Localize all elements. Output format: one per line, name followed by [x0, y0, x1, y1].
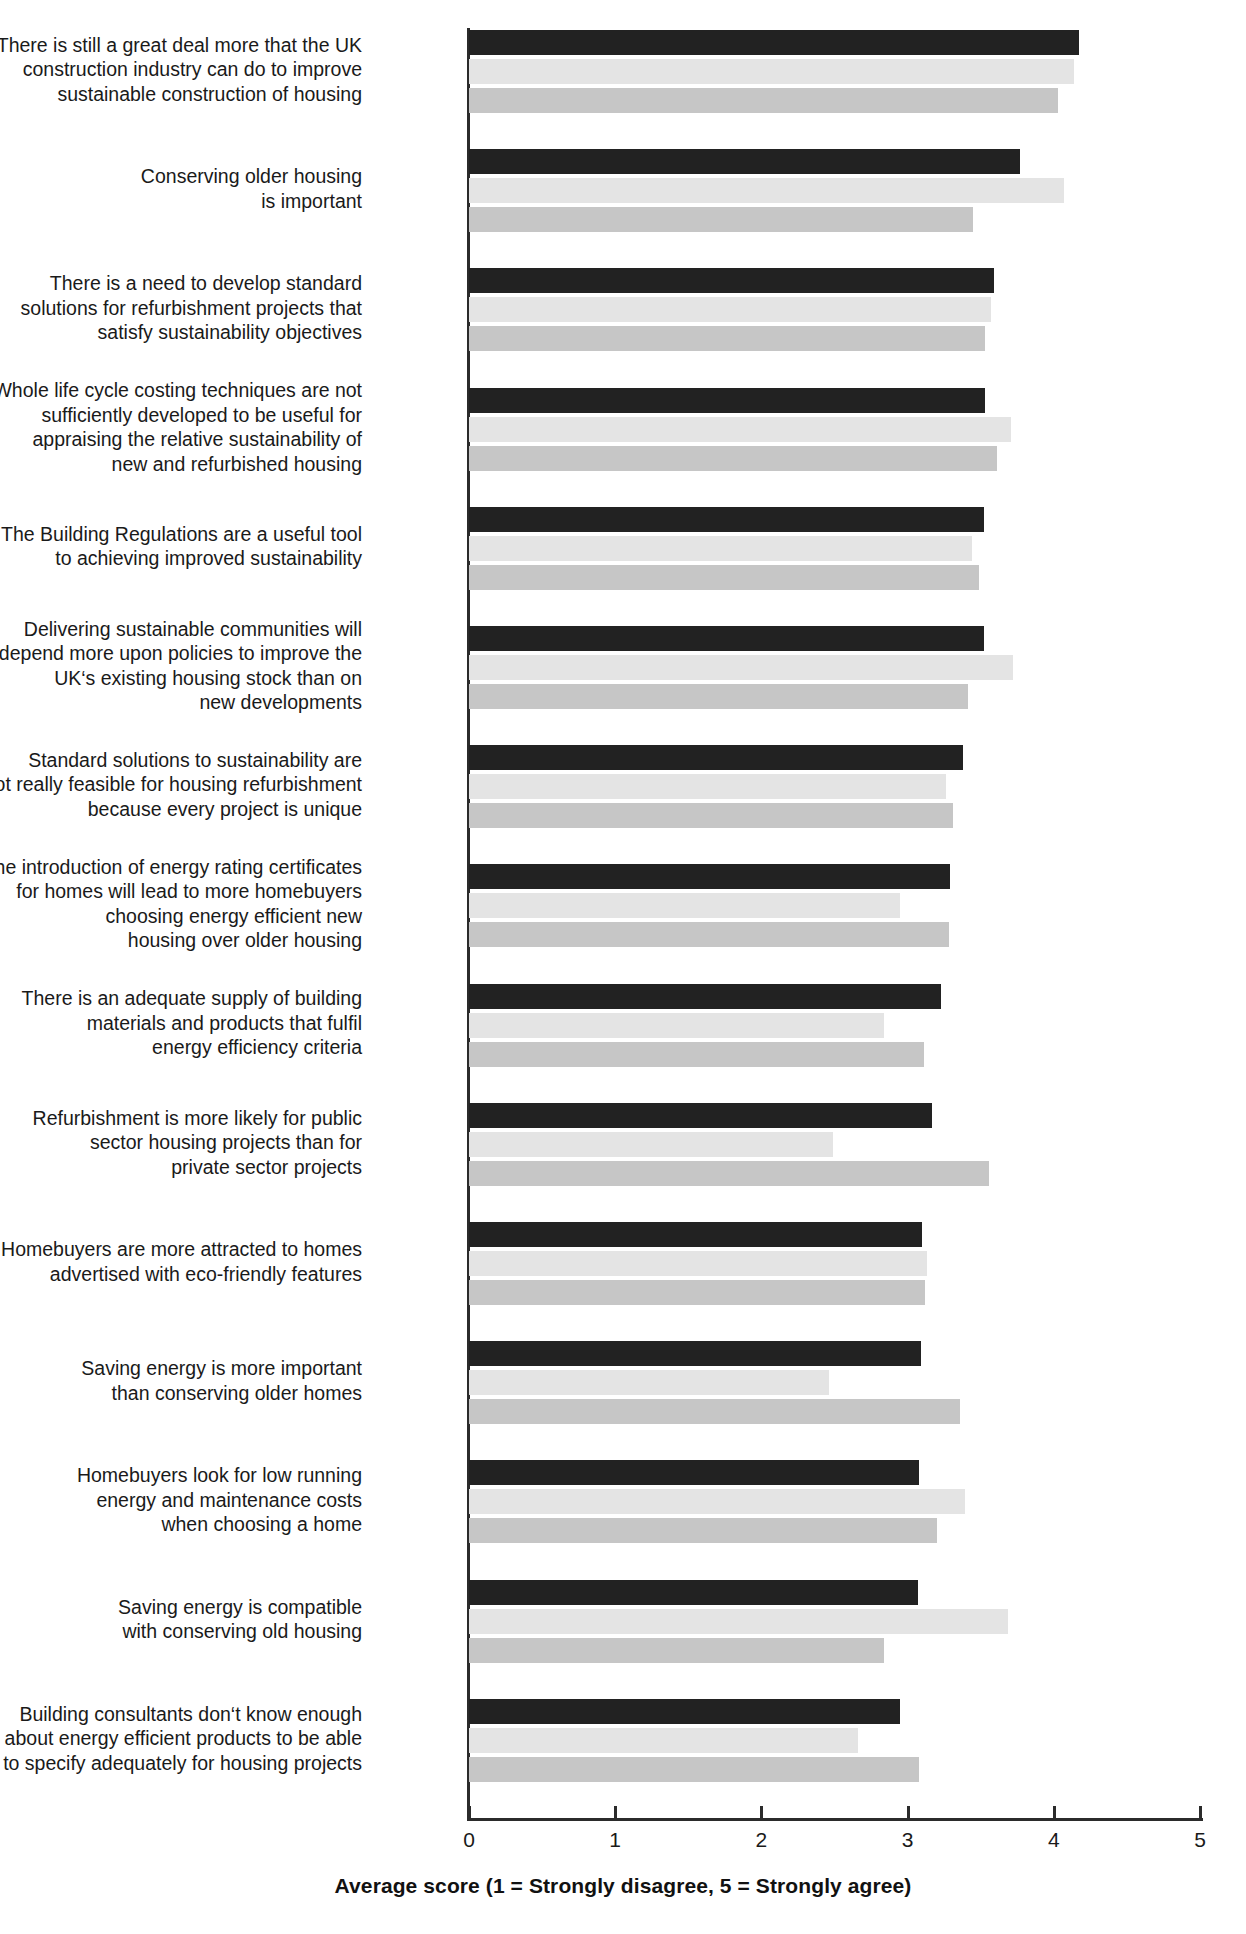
- bar: [469, 864, 950, 889]
- category-label: Homebuyers look for low running energy a…: [0, 1463, 362, 1537]
- bar: [469, 1580, 918, 1605]
- bar: [469, 30, 1079, 55]
- x-tick-label-0: 0: [439, 1828, 499, 1852]
- bar: [469, 536, 972, 561]
- bar: [469, 1132, 833, 1157]
- category-label: Homebuyers are more attracted to homes a…: [0, 1237, 362, 1286]
- bar-group: The introduction of energy rating certif…: [0, 864, 1246, 983]
- bar: [469, 1251, 927, 1276]
- bar-group: The Building Regulations are a useful to…: [0, 507, 1246, 626]
- bar: [469, 1103, 932, 1128]
- category-label: There is an adequate supply of building …: [0, 986, 362, 1060]
- category-label: Delivering sustainable communities will …: [0, 617, 362, 715]
- bar: [469, 1013, 884, 1038]
- category-label: Standard solutions to sustainability are…: [0, 748, 362, 822]
- bar: [469, 1460, 919, 1485]
- bar: [469, 1757, 919, 1782]
- bar: [469, 1489, 965, 1514]
- category-label: There is a need to develop standard solu…: [0, 271, 362, 345]
- category-label: Saving energy is more important than con…: [0, 1356, 362, 1405]
- x-axis-line: [467, 1818, 1203, 1821]
- x-tick-label-3: 3: [878, 1828, 938, 1852]
- bar: [469, 1280, 925, 1305]
- category-label: Whole life cycle costing techniques are …: [0, 378, 362, 476]
- bar: [469, 268, 994, 293]
- bar: [469, 1518, 937, 1543]
- bar: [469, 59, 1074, 84]
- bar: [469, 984, 941, 1009]
- category-label: Saving energy is compatible with conserv…: [0, 1595, 362, 1644]
- category-label: Refurbishment is more likely for public …: [0, 1106, 362, 1180]
- bar: [469, 178, 1064, 203]
- bar-group: There is still a great deal more that th…: [0, 30, 1246, 149]
- bar: [469, 446, 997, 471]
- category-label: Building consultants don‘t know enough a…: [0, 1702, 362, 1776]
- bar: [469, 417, 1011, 442]
- x-tick-label-4: 4: [1024, 1828, 1084, 1852]
- bar: [469, 149, 1020, 174]
- bar: [469, 565, 979, 590]
- bar: [469, 1609, 1008, 1634]
- bar: [469, 1341, 921, 1366]
- horizontal-bar-chart: 012345 Average score (1 = Strongly disag…: [0, 0, 1246, 1934]
- x-tick-label-5: 5: [1170, 1828, 1230, 1852]
- bar-group: Homebuyers look for low running energy a…: [0, 1460, 1246, 1579]
- bar-group: There is an adequate supply of building …: [0, 984, 1246, 1103]
- bar: [469, 326, 985, 351]
- bar: [469, 1222, 922, 1247]
- category-label: The Building Regulations are a useful to…: [0, 522, 362, 571]
- bar: [469, 1728, 858, 1753]
- bar-group: Homebuyers are more attracted to homes a…: [0, 1222, 1246, 1341]
- bar: [469, 745, 963, 770]
- bar: [469, 1699, 900, 1724]
- bar: [469, 626, 984, 651]
- bar: [469, 922, 949, 947]
- bar: [469, 388, 985, 413]
- bar-group: Conserving older housing is important: [0, 149, 1246, 268]
- bar: [469, 1161, 989, 1186]
- category-label: The introduction of energy rating certif…: [0, 855, 362, 953]
- bar: [469, 507, 984, 532]
- category-label: Conserving older housing is important: [0, 164, 362, 213]
- bar: [469, 1399, 960, 1424]
- bar: [469, 88, 1058, 113]
- bar: [469, 655, 1013, 680]
- bar-group: Refurbishment is more likely for public …: [0, 1103, 1246, 1222]
- bar-group: Whole life cycle costing techniques are …: [0, 388, 1246, 507]
- category-label: There is still a great deal more that th…: [0, 33, 362, 107]
- bar: [469, 297, 991, 322]
- bar-group: Delivering sustainable communities will …: [0, 626, 1246, 745]
- bar-group: Building consultants don‘t know enough a…: [0, 1699, 1246, 1818]
- x-axis-title: Average score (1 = Strongly disagree, 5 …: [0, 1874, 1246, 1898]
- bar-group: There is a need to develop standard solu…: [0, 268, 1246, 387]
- bar: [469, 207, 973, 232]
- bar: [469, 684, 968, 709]
- x-tick-label-1: 1: [585, 1828, 645, 1852]
- bar: [469, 774, 946, 799]
- bar: [469, 1370, 829, 1395]
- x-tick-label-2: 2: [731, 1828, 791, 1852]
- bar: [469, 803, 953, 828]
- bar: [469, 1638, 884, 1663]
- bar-group: Standard solutions to sustainability are…: [0, 745, 1246, 864]
- bar: [469, 893, 900, 918]
- bar-group: Saving energy is compatible with conserv…: [0, 1580, 1246, 1699]
- bar-group: Saving energy is more important than con…: [0, 1341, 1246, 1460]
- bar: [469, 1042, 924, 1067]
